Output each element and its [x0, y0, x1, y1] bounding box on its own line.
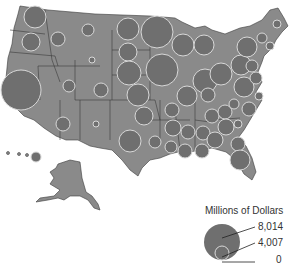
state-bubble [22, 33, 40, 51]
state-bubble [94, 83, 108, 97]
legend-title: Millions of Dollars [205, 205, 283, 216]
state-bubble [31, 152, 41, 162]
state-bubble [242, 102, 256, 116]
state-bubble [93, 121, 99, 127]
state-bubble [229, 99, 239, 109]
state-bubble [205, 109, 219, 123]
state-bubble [117, 18, 139, 40]
state-bubble [194, 35, 214, 55]
state-bubble [257, 33, 267, 43]
state-bubble [165, 141, 177, 153]
state-bubble [178, 144, 192, 158]
state-bubble [181, 125, 195, 139]
state-bubble [165, 103, 179, 117]
hawaii-island [7, 152, 10, 155]
state-bubble [237, 37, 257, 57]
state-bubble [210, 63, 232, 85]
state-bubble [231, 137, 245, 151]
state-bubble [119, 43, 137, 61]
state-bubble [135, 107, 153, 125]
legend-value-mid: 4,007 [258, 237, 283, 248]
state-bubble [117, 61, 141, 85]
state-bubble [63, 80, 75, 92]
legend-value-max: 8,014 [258, 221, 283, 232]
state-bubble [250, 72, 262, 84]
state-bubble [266, 42, 274, 50]
state-bubble [234, 120, 242, 128]
state-bubble [51, 32, 65, 46]
alaska [36, 160, 100, 210]
legend-symbols [204, 224, 255, 262]
state-bubble [255, 92, 263, 100]
legend-value-zero: 0 [276, 254, 282, 265]
hawaii-island [18, 153, 21, 156]
state-bubble [149, 136, 161, 148]
state-bubble [177, 86, 197, 106]
state-bubble [201, 88, 215, 102]
state-bubble [82, 24, 94, 36]
state-bubble [218, 119, 234, 135]
state-bubble [89, 57, 95, 63]
state-bubble [273, 20, 281, 28]
state-bubble [56, 117, 70, 131]
state-bubble [207, 132, 223, 148]
state-bubble [172, 34, 194, 56]
state-bubble [141, 16, 173, 48]
state-bubble [246, 60, 258, 72]
state-bubble [165, 120, 181, 136]
legend-circle-max [204, 224, 240, 260]
state-bubble [119, 130, 141, 152]
hawaii-island [26, 154, 29, 157]
state-bubble [195, 144, 209, 158]
state-bubble [1, 70, 41, 110]
us-map [0, 0, 293, 265]
state-bubble [127, 84, 149, 106]
state-bubble [146, 54, 178, 86]
state-bubble [230, 150, 250, 170]
state-bubble [24, 6, 46, 28]
